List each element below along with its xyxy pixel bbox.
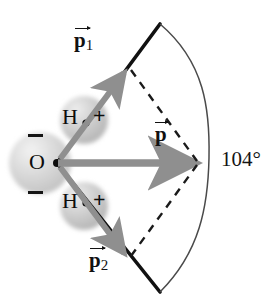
vector-label-p-resultant: p [155,124,167,145]
vector-label-p2-subscript: 2 [101,257,109,273]
angle-arc [160,24,209,292]
vector-label-p2-text: p [89,248,101,272]
vector-label-p2: p2 [89,250,108,273]
atom-label-hydrogen-lower: H [62,190,78,212]
vector-hat-arrow-p2-icon [90,248,105,249]
charge-label-hydrogen-lower: + [93,189,106,211]
vector-hat-arrow-p-icon [155,122,168,123]
atom-label-oxygen: O [29,151,45,173]
vector-label-p1-text: p [74,28,86,52]
dipole-moment-diagram: p1 p2 p O H + H + 104° [0,0,274,303]
charge-label-oxygen-top [28,134,43,137]
angle-label: 104° [221,149,261,170]
vector-hat-arrow-p1-icon [75,28,90,29]
charge-label-hydrogen-upper: + [93,105,106,127]
vector-label-p1: p1 [74,30,93,53]
atom-label-hydrogen-upper: H [62,106,78,128]
charge-label-oxygen-bottom [28,191,43,194]
dashed-construction-line-lower [131,165,197,256]
vector-label-p-text: p [155,122,167,146]
vector-label-p1-subscript: 1 [86,37,94,53]
dashed-construction-line-upper [131,70,197,161]
